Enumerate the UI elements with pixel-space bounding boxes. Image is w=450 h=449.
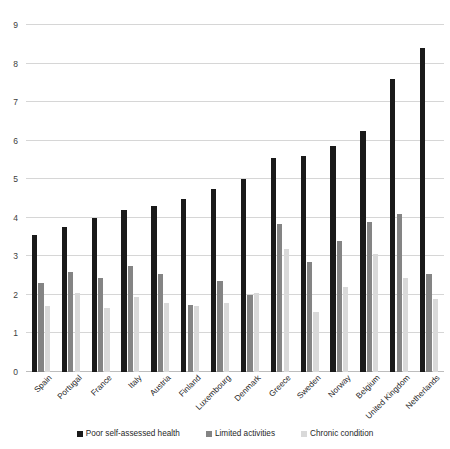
bar [313, 312, 318, 372]
legend-swatch-icon [206, 431, 212, 437]
bar [241, 179, 246, 372]
plot-area [26, 25, 444, 372]
bar [337, 241, 342, 372]
bar-group [56, 25, 86, 372]
bars-layer [26, 25, 444, 372]
bar [38, 283, 43, 372]
bar [224, 303, 229, 372]
bar [164, 303, 169, 372]
bar [32, 235, 37, 372]
bar-group [295, 25, 325, 372]
bar [284, 249, 289, 372]
y-tick-8: 8 [13, 59, 18, 68]
bar [181, 199, 186, 373]
bar [62, 227, 67, 372]
x-tick-label: Italy [127, 374, 143, 390]
bar [367, 222, 372, 372]
bar [373, 254, 378, 372]
y-tick-9: 9 [13, 21, 18, 30]
bar-group [86, 25, 116, 372]
bar [98, 278, 103, 372]
x-tick-label: Portugal [56, 374, 83, 401]
bar [301, 156, 306, 372]
bar-group [116, 25, 146, 372]
bar [92, 218, 97, 372]
legend-item: Chronic condition [301, 430, 373, 438]
bar [68, 272, 73, 372]
bar-group [205, 25, 235, 372]
x-tick-label: Austria [149, 374, 173, 398]
bar [247, 295, 252, 372]
bar [420, 48, 425, 372]
x-tick-label: Spain [33, 374, 54, 395]
bar [194, 306, 199, 372]
bar [403, 278, 408, 372]
x-tick-label: France [90, 374, 114, 398]
x-tick-label: Denmark [233, 374, 262, 403]
bar-group [145, 25, 175, 372]
y-axis-tick-labels: 0123456789 [0, 25, 22, 372]
bar-group [414, 25, 444, 372]
bar [397, 214, 402, 372]
bar-group [325, 25, 355, 372]
bar [390, 79, 395, 372]
legend-label: Chronic condition [310, 430, 373, 438]
bar [217, 281, 222, 372]
bar [158, 274, 163, 372]
legend-item: Poor self-assessed health [77, 430, 180, 438]
bar-group [384, 25, 414, 372]
bar [360, 131, 365, 372]
bar [433, 299, 438, 372]
bar [277, 224, 282, 372]
bar [128, 266, 133, 372]
y-tick-6: 6 [13, 136, 18, 145]
bar [45, 306, 50, 372]
y-tick-4: 4 [13, 214, 18, 223]
bar [307, 262, 312, 372]
bar-group [354, 25, 384, 372]
legend-swatch-icon [77, 431, 83, 437]
x-tick-label: Norway [327, 374, 352, 399]
bar [188, 305, 193, 372]
x-tick-label: Belgium [355, 374, 382, 401]
bar [151, 206, 156, 372]
y-tick-2: 2 [13, 291, 18, 300]
bar [134, 297, 139, 372]
x-axis-category-labels: SpainPortugalFranceItalyAustriaFinlandLu… [26, 374, 444, 426]
bar [121, 210, 126, 372]
bar-group [26, 25, 56, 372]
y-tick-0: 0 [13, 368, 18, 377]
bar-chart: 0123456789 SpainPortugalFranceItalyAustr… [0, 0, 450, 449]
x-tick-label: Finland [178, 374, 203, 399]
bar-group [235, 25, 265, 372]
x-tick-label: Greece [268, 374, 293, 399]
y-tick-7: 7 [13, 98, 18, 107]
bar [75, 293, 80, 372]
bar-group [175, 25, 205, 372]
y-tick-3: 3 [13, 252, 18, 261]
bar [426, 274, 431, 372]
bar [104, 308, 109, 372]
bar [254, 293, 259, 372]
legend-label: Limited activities [215, 430, 275, 438]
y-tick-5: 5 [13, 175, 18, 184]
y-tick-1: 1 [13, 329, 18, 338]
bar [211, 189, 216, 372]
bar [271, 158, 276, 372]
bar [343, 287, 348, 372]
legend-label: Poor self-assessed health [86, 430, 180, 438]
legend-swatch-icon [301, 431, 307, 437]
legend-item: Limited activities [206, 430, 275, 438]
bar [330, 146, 335, 372]
bar-group [265, 25, 295, 372]
x-tick-label: Sweden [296, 374, 323, 401]
chart-legend: Poor self-assessed healthLimited activit… [0, 430, 450, 438]
